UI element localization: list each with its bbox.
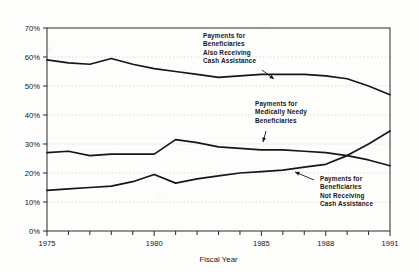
chart-figure: 0%10%20%30%40%50%60%70%19751980198519881… xyxy=(0,0,419,273)
x-axis-tick-label: 1975 xyxy=(39,239,56,248)
y-axis-tick-label: 60% xyxy=(25,53,40,62)
x-axis-tick-label: 1980 xyxy=(146,239,163,248)
x-axis-tick-label: 1988 xyxy=(317,239,334,248)
x-axis-tick-label: 1991 xyxy=(382,239,399,248)
annotation-line: Cash Assistance xyxy=(203,57,256,64)
line-chart-canvas: 0%10%20%30%40%50%60%70%19751980198519881… xyxy=(0,0,419,273)
annotation-line: Beneficiaries xyxy=(255,117,297,124)
y-axis-tick-label: 50% xyxy=(25,82,40,91)
annotation-line: Payments for xyxy=(320,175,363,183)
y-axis-tick-label: 10% xyxy=(25,198,40,207)
y-axis-tick-label: 30% xyxy=(25,140,40,149)
annotation-line: Also Receiving xyxy=(203,49,251,57)
y-axis-tick-label: 70% xyxy=(25,24,40,33)
x-axis-tick-label: 1985 xyxy=(253,239,270,248)
annotation-line: Payments for xyxy=(255,100,298,108)
annotation-line: Beneficiaries xyxy=(320,183,362,190)
y-axis-tick-label: 40% xyxy=(25,111,40,120)
annotation-line: Beneficiaries xyxy=(203,40,245,47)
annotation-line: Cash Assistance xyxy=(320,200,373,207)
x-axis-title: Fiscal Year xyxy=(199,255,238,264)
y-axis-tick-label: 0% xyxy=(29,227,40,236)
annotation-line: Not Receiving xyxy=(320,192,365,200)
annotation-line: Medically Needy xyxy=(255,108,307,116)
y-axis-tick-label: 20% xyxy=(25,169,40,178)
annotation-line: Payments for xyxy=(203,32,246,40)
